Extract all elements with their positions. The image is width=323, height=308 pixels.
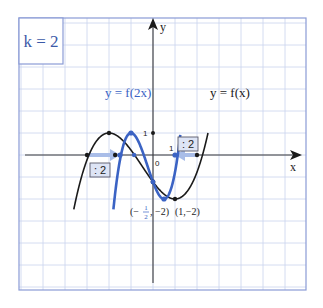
x-tick-label: 1 <box>169 144 174 153</box>
label-f: y = f(x) <box>210 85 250 100</box>
key-point <box>85 153 89 157</box>
k-label: k = 2 <box>23 32 58 51</box>
y-intercept-point <box>151 179 156 184</box>
key-point <box>195 153 199 157</box>
svg-text:(−: (− <box>130 206 139 218</box>
root-point <box>132 153 136 157</box>
x-axis-label: x <box>290 160 296 174</box>
diagram: k = 2 x y 0 1 1 y = f(x) y = f(2x) : 2 <box>0 0 323 308</box>
y-tick-label: 1 <box>143 129 148 138</box>
g-min-num: 1 <box>144 204 148 212</box>
root-point <box>113 153 117 157</box>
key-point <box>117 152 122 157</box>
g-min-prefix: (− <box>130 206 139 218</box>
label-f-min: (1,−2) <box>175 206 200 218</box>
origin-label: 0 <box>155 159 160 168</box>
key-point <box>107 131 111 135</box>
key-point <box>161 196 166 201</box>
scale-badge-right-label: : 2 <box>182 138 194 150</box>
label-f-2x: y = f(2x) <box>105 85 151 100</box>
k-box: k = 2 <box>19 18 63 64</box>
key-point <box>128 130 133 135</box>
g-min-suffix: , −2) <box>150 206 169 218</box>
g-min-den: 2 <box>144 213 148 221</box>
scale-badge-right: : 2 <box>178 137 198 151</box>
y-axis-label: y <box>160 20 166 34</box>
scale-badge-left: : 2 <box>90 163 110 177</box>
y-tick-dot <box>151 131 155 135</box>
label-g-min: (− 1 2 , −2) <box>130 204 169 221</box>
scale-badge-left-label: : 2 <box>94 164 106 176</box>
key-point <box>173 197 177 201</box>
key-point <box>172 152 177 157</box>
